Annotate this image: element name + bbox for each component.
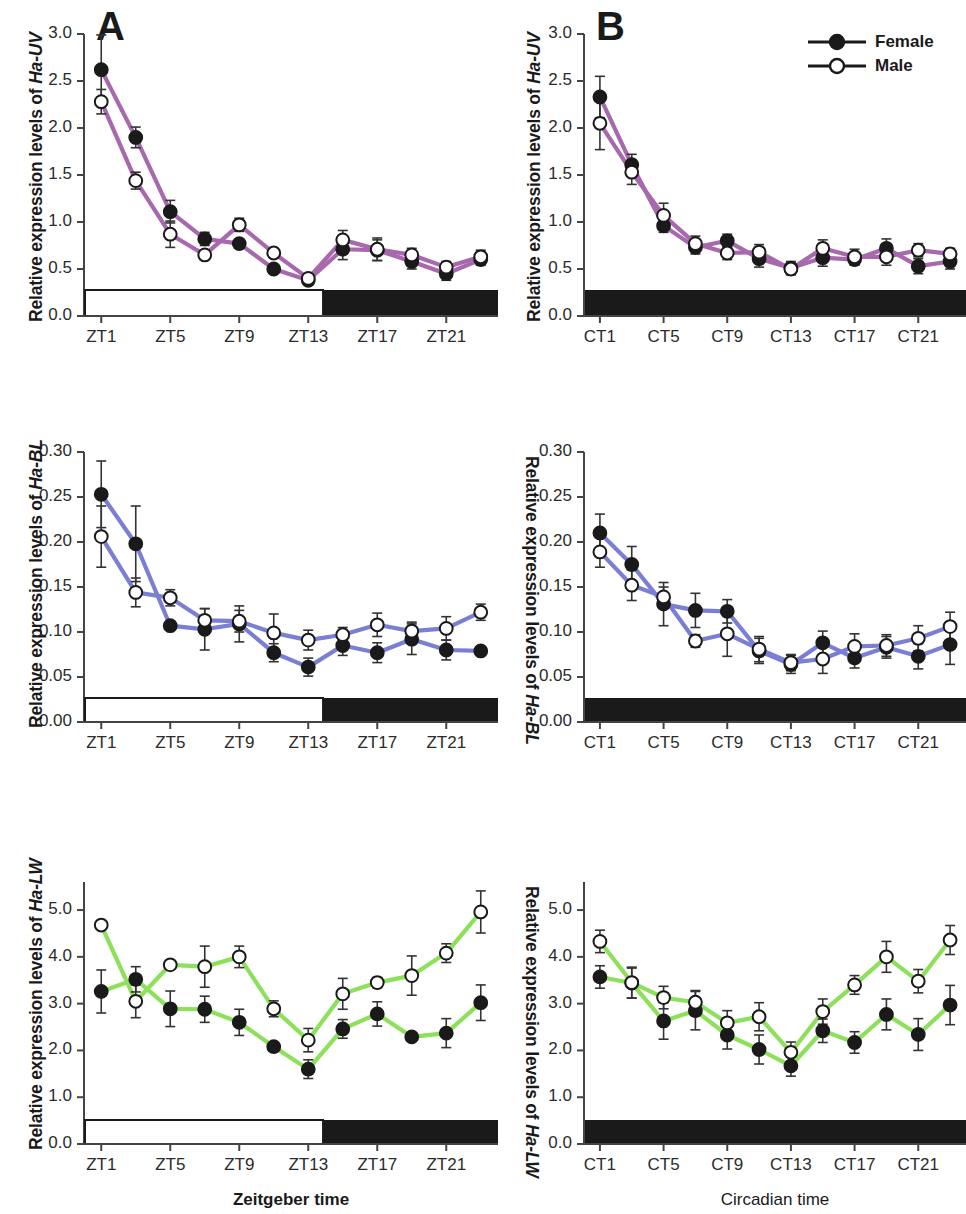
data-point-female [657,1015,670,1028]
chart-b-lw: 0.01.02.03.04.05.0CT1CT5CT9CT13CT17CT21R… [0,0,966,1214]
data-point-female [594,971,607,984]
data-point-male [625,976,638,989]
error-bar [913,969,923,992]
x-axis-title-right: Circadian time [584,1190,966,1210]
error-bar [786,1056,796,1077]
error-bar [627,968,637,998]
error-bar [913,1019,923,1051]
x-axis-title-left: Zeitgeber time [84,1190,498,1210]
error-bar [881,999,891,1030]
data-point-male [848,979,861,992]
data-point-male [657,991,670,1004]
data-point-male [816,1005,829,1018]
error-bar [722,1021,732,1049]
legend-item-male: Male [806,54,934,78]
error-bar [690,991,700,1029]
series-line-male [600,940,950,1052]
error-bar [722,1011,732,1035]
data-point-female [880,1008,893,1021]
error-bar [754,1003,764,1031]
series-line-female [600,977,950,1066]
error-bar [595,966,605,988]
data-point-female [912,1028,925,1041]
data-point-male [944,934,957,947]
data-point-female [753,1043,766,1056]
error-bar [595,930,605,952]
data-point-male [689,996,702,1009]
y-axis-title-gene: Ha-LW [522,1124,542,1177]
legend-label: Female [875,32,934,52]
data-point-female [689,1004,702,1017]
x-tick-label: CT21 [873,1155,963,1175]
error-bar [818,1019,828,1042]
y-axis-title-prefix: Relative expression levels of [522,886,542,1119]
error-bar [945,926,955,955]
error-bar [659,1003,669,1039]
data-point-female [848,1036,861,1049]
error-bar [754,1035,764,1064]
y-axis-title: Relative expression levels of Ha-LW [521,886,542,1178]
error-bar [881,941,891,972]
data-point-male [721,1016,734,1029]
error-bar [786,1042,796,1063]
open-circle-icon [806,55,868,77]
data-point-female [625,977,638,990]
filled-circle-icon [806,31,868,53]
error-bar [627,967,637,998]
data-point-male [594,935,607,948]
data-point-male [753,1010,766,1023]
error-bar [659,986,669,1008]
data-point-female [785,1059,798,1072]
data-point-male [785,1046,798,1059]
legend-item-female: Female [806,30,934,54]
data-point-female [816,1024,829,1037]
legend: FemaleMale [806,30,934,78]
data-point-male [912,975,925,988]
error-bar [850,1032,860,1054]
error-bar [690,991,700,1014]
legend-label: Male [875,56,913,76]
error-bar [850,976,860,995]
figure-root: AB0.00.51.01.52.02.53.0ZT1ZT5ZT9ZT13ZT17… [0,0,966,1214]
error-bar [818,999,828,1024]
scotophase-bar [585,1120,966,1144]
data-point-female [944,999,957,1012]
data-point-male [880,950,893,963]
error-bar [945,985,955,1024]
data-point-female [721,1029,734,1042]
